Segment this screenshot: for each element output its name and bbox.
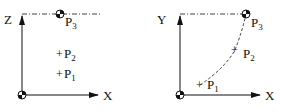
y-axis-label: Y: [157, 12, 167, 27]
p2-label: P2: [243, 46, 255, 63]
p1-label: P1: [64, 66, 76, 83]
p2-label: P2: [64, 46, 76, 63]
p3-target-icon: [242, 10, 250, 18]
p3-label: P3: [251, 15, 263, 32]
z-axis-label: Z: [4, 12, 12, 27]
p1-plus-icon: +: [196, 78, 203, 92]
p1-plus-icon: +: [56, 67, 63, 81]
p3-label: P3: [65, 14, 77, 31]
p2-plus-icon: +: [231, 43, 238, 57]
p2-plus-icon: +: [56, 47, 63, 61]
right-panel: Y X P3 + P2 + P1: [157, 10, 275, 103]
x-axis-label: X: [265, 88, 275, 103]
coordinate-diagrams: Z X P3 + P2 + P1 Y X: [0, 0, 281, 112]
origin-target-icon: [18, 91, 26, 99]
origin-target-icon: [176, 91, 184, 99]
p1-label: P1: [207, 77, 219, 94]
left-panel: Z X P3 + P2 + P1: [4, 10, 113, 103]
p3-target-icon: [56, 10, 64, 18]
dashed-path: [200, 14, 246, 85]
x-axis-label: X: [103, 88, 113, 103]
